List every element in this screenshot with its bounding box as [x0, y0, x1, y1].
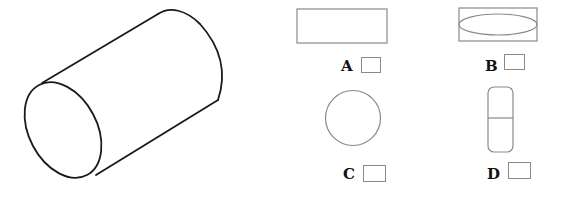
option-d-label: D — [487, 167, 500, 182]
option-b-shape — [458, 7, 539, 43]
option-d-shape — [487, 86, 515, 154]
option-c-shape — [324, 89, 382, 147]
cylinder-top-edge — [42, 14, 158, 83]
cylinder-bottom-edge — [96, 100, 218, 175]
cylinder-back-arc — [158, 10, 222, 100]
option-b-checkbox[interactable] — [504, 54, 525, 70]
option-b-label: B — [485, 59, 498, 74]
option-a-label: A — [341, 59, 353, 74]
cylinder-drawing — [0, 0, 260, 199]
option-c-checkbox[interactable] — [363, 165, 386, 182]
option-d-checkbox[interactable] — [508, 162, 531, 179]
option-a-shape — [296, 8, 389, 45]
option-c-label: C — [343, 167, 355, 182]
option-a-checkbox[interactable] — [361, 57, 381, 73]
